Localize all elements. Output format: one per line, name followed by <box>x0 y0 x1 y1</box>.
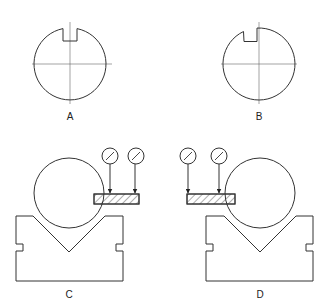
dial-indicator-icon <box>180 148 196 193</box>
dial-indicator-icon <box>211 148 227 193</box>
panel-d-vblock-setup <box>180 148 313 281</box>
dial-indicator-icon <box>128 148 144 193</box>
v-block-icon <box>206 216 313 281</box>
diagram-canvas <box>0 0 329 308</box>
panel-label-d: D <box>256 290 263 300</box>
shaft-circle <box>34 158 104 228</box>
shaft-circle <box>225 158 295 228</box>
hatched-gauge-block-icon <box>94 194 139 204</box>
panel-label-a: A <box>67 112 74 122</box>
panel-a-shaft-section <box>32 22 112 104</box>
hatched-gauge-block-icon <box>187 194 235 204</box>
dial-indicator-icon <box>102 148 118 193</box>
v-block-icon <box>16 216 123 281</box>
panel-label-b: B <box>256 112 263 122</box>
panel-b-shaft-section <box>221 22 297 104</box>
panel-label-c: C <box>65 290 72 300</box>
panel-c-vblock-setup <box>16 148 144 281</box>
